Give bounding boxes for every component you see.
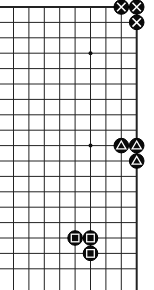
stone-black-triangle	[129, 138, 144, 153]
stone-icon	[83, 231, 98, 246]
stone-black-triangle	[114, 138, 129, 153]
go-board	[0, 0, 154, 290]
stone-black-square	[83, 246, 98, 261]
stone-icon	[68, 231, 83, 246]
star-point-icon	[89, 144, 93, 148]
stone-black-cross	[114, 0, 129, 14]
stone-black-square	[68, 231, 83, 246]
stone-icon	[83, 246, 98, 261]
stone-black-square	[83, 231, 98, 246]
star-point-icon	[89, 51, 93, 55]
stone-black-cross	[129, 15, 144, 30]
stone-black-cross	[129, 0, 144, 14]
stone-black-triangle	[129, 154, 144, 169]
